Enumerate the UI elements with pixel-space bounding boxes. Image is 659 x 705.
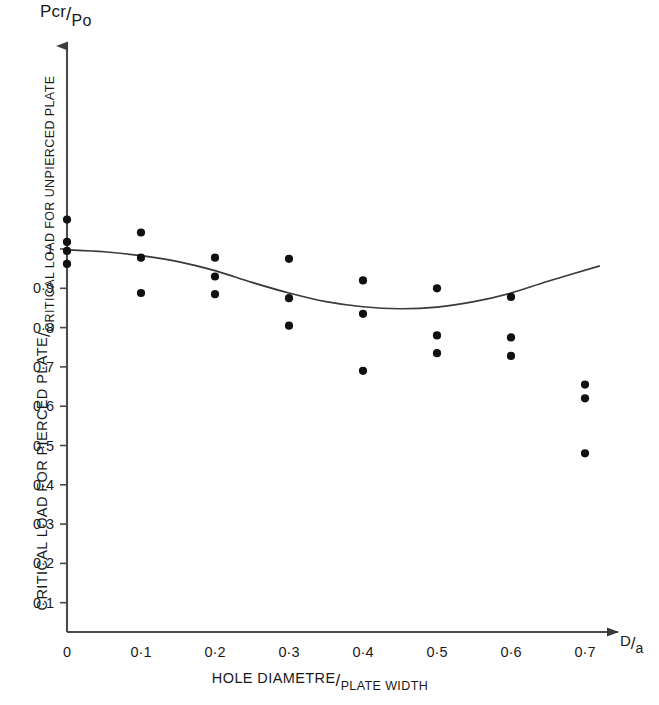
x-caption-numerator: HOLE DIAMETRE (212, 670, 336, 686)
data-point (433, 331, 441, 339)
x-caption-denominator: PLATE WIDTH (341, 679, 429, 693)
y-symbol-numerator: Pcr (40, 2, 66, 22)
data-point (433, 284, 441, 292)
data-point (285, 255, 293, 263)
data-point (137, 254, 145, 262)
y-axis-symbol-label: Pcr/Po (40, 2, 92, 24)
x-tick-label: 0·5 (427, 644, 448, 660)
x-tick-label: 0·6 (501, 644, 522, 660)
data-point-group (63, 215, 589, 457)
y-caption-denominator: CRITICAL LOAD FOR UNPIERCED PLATE (43, 76, 57, 332)
data-point (433, 349, 441, 357)
data-point (581, 394, 589, 402)
y-axis-caption: CRITICAL LOAD FOR PIERCED PLATE/CRITICAL… (35, 43, 55, 643)
x-axis-symbol-label: D/a (620, 634, 643, 654)
data-point (507, 293, 515, 301)
x-symbol-numerator: D (620, 632, 631, 649)
x-tick-label: 0·3 (279, 644, 300, 660)
data-point (285, 294, 293, 302)
chart-figure: 0·10·20·30·40·50·60·70·80·91 00·10·20·30… (0, 0, 659, 705)
y-caption-numerator: CRITICAL LOAD FOR PIERCED PLATE (34, 337, 50, 610)
data-point (63, 247, 71, 255)
data-point (211, 254, 219, 262)
data-point (211, 290, 219, 298)
data-point (63, 260, 71, 268)
data-point (137, 289, 145, 297)
x-tick-labels: 00·10·20·30·40·50·60·7 (63, 644, 596, 660)
data-point (285, 322, 293, 330)
data-point (581, 380, 589, 388)
x-tick-label: 0·1 (131, 644, 152, 660)
data-point (359, 310, 367, 318)
data-point (211, 272, 219, 280)
data-point (359, 367, 367, 375)
data-point (359, 276, 367, 284)
x-symbol-denominator: a (636, 640, 644, 656)
axis-lines (67, 46, 618, 632)
x-axis-caption: HOLE DIAMETRE/PLATE WIDTH (0, 671, 640, 691)
plot-canvas: 0·10·20·30·40·50·60·70·80·91 00·10·20·30… (0, 0, 659, 705)
x-tick-label: 0·2 (205, 644, 226, 660)
data-point (507, 333, 515, 341)
y-symbol-denominator: Po (72, 12, 92, 30)
data-point (581, 449, 589, 457)
x-tick-label: 0·7 (575, 644, 596, 660)
data-point (507, 352, 515, 360)
data-point (63, 238, 71, 246)
fitted-curve (67, 250, 600, 309)
data-point (137, 228, 145, 236)
data-point (63, 215, 71, 223)
x-tick-label: 0·4 (353, 644, 374, 660)
x-tick-label: 0 (63, 644, 71, 660)
